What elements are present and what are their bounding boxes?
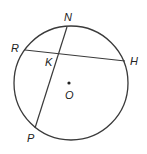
label-r: R: [11, 42, 19, 54]
chord-rh: [25, 50, 125, 61]
label-n: N: [64, 11, 72, 23]
label-k: K: [45, 56, 53, 68]
circle-o: [14, 26, 128, 140]
circle-diagram: N R H P K O: [0, 0, 147, 154]
chord-np: [35, 27, 67, 128]
label-h: H: [130, 55, 138, 67]
center-point-o: [67, 81, 70, 84]
label-o: O: [65, 89, 74, 101]
label-p: P: [27, 132, 35, 144]
